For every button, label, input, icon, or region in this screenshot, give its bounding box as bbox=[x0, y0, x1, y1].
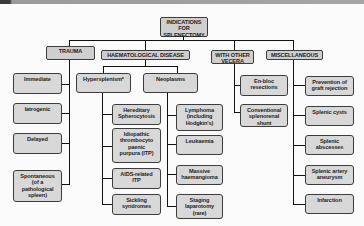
connector bbox=[234, 40, 235, 50]
root-node: INDICATIONS FOR SPLENECTOMY bbox=[160, 17, 208, 37]
other-viscera-item-en-bloc: En-bloc resections bbox=[240, 75, 288, 96]
neoplasms-item-leukaemia: Leukaemia bbox=[176, 135, 223, 155]
connector bbox=[167, 115, 176, 116]
trauma-item-iatrogenic: Iatrogenic bbox=[13, 103, 62, 124]
misc-item-graft-rejection: Prevention of graft rejection bbox=[305, 76, 354, 96]
connector bbox=[293, 85, 305, 86]
subcategory-hypersplenism: Hypersplenism* bbox=[76, 73, 131, 93]
other-viscera-item-splenorenal-shunt: Conventional splenorenal shunt bbox=[240, 104, 288, 127]
connector bbox=[234, 64, 235, 112]
connector bbox=[69, 60, 70, 184]
misc-item-splenic-cysts: Splenic cysts bbox=[305, 106, 354, 126]
connector bbox=[145, 40, 146, 50]
connector bbox=[102, 146, 112, 147]
connector bbox=[167, 206, 176, 207]
connector bbox=[62, 143, 70, 144]
neoplasms-item-staging-laparotomy: Staging laparotomy (rare) bbox=[176, 194, 223, 219]
connector bbox=[177, 66, 178, 73]
connector bbox=[62, 113, 70, 114]
connector bbox=[293, 145, 305, 146]
hypersplenism-item-itp: Idiopathic thrombocyto paenic purpura (I… bbox=[112, 128, 161, 163]
connector bbox=[62, 84, 70, 85]
connector bbox=[293, 60, 294, 205]
connector bbox=[102, 93, 103, 204]
misc-item-splenic-abscesses: Splenic abscesses bbox=[305, 135, 354, 155]
connector bbox=[167, 93, 168, 207]
hypersplenism-item-sickling: Sickling syndromes bbox=[112, 194, 161, 215]
category-trauma: TRAUMA bbox=[46, 46, 95, 60]
misc-item-splenic-artery-aneurysm: Splenic artery aneurysm bbox=[305, 165, 354, 185]
connector bbox=[102, 114, 112, 115]
hypersplenism-item-hereditary-spherocytosis: Hereditary Spherocytosis bbox=[112, 104, 161, 125]
connector bbox=[102, 204, 112, 205]
trauma-item-immediate: Immediate bbox=[13, 73, 62, 94]
connector bbox=[62, 184, 70, 185]
neoplasms-item-lymphoma: Lymphoma (including Hodgkin's) bbox=[176, 104, 223, 131]
connector bbox=[167, 174, 176, 175]
hypersplenism-item-aids-itp: AIDS-related ITP bbox=[112, 168, 161, 189]
connector bbox=[293, 204, 305, 205]
connector bbox=[293, 175, 305, 176]
trauma-item-spontaneous: Spontaneous (of a pathological spleen) bbox=[13, 170, 62, 202]
connector bbox=[102, 178, 112, 179]
category-miscellaneous: MISCELLANEOUS bbox=[266, 50, 323, 60]
connector bbox=[69, 40, 294, 41]
connector bbox=[293, 40, 294, 50]
connector bbox=[103, 66, 104, 73]
header-bar bbox=[0, 0, 364, 4]
trauma-item-delayed: Delayed bbox=[13, 133, 62, 154]
category-haematological-disease: HAEMATOLOGICAL DISEASE bbox=[101, 50, 190, 60]
connector bbox=[293, 115, 305, 116]
misc-item-infarction: Infarction bbox=[305, 194, 354, 214]
neoplasms-item-massive-haemangioma: Massive haemangioma bbox=[176, 165, 223, 185]
connector bbox=[103, 66, 178, 67]
connector bbox=[167, 144, 176, 145]
subcategory-neoplasms: Neoplasms bbox=[143, 73, 198, 93]
category-with-other-viscera: WITH OTHER VECERA bbox=[211, 50, 254, 64]
